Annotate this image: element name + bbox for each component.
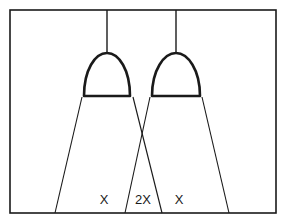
intensity-label-left: X <box>100 193 109 206</box>
lamp-diagram <box>0 0 285 221</box>
lamp-left <box>84 10 130 96</box>
lamp-right <box>152 10 200 96</box>
lamp-shade-right-icon <box>152 53 200 96</box>
intensity-label-overlap: 2X <box>135 193 151 206</box>
room-frame <box>10 10 276 213</box>
lamp-shade-left-icon <box>84 53 130 96</box>
intensity-label-right: X <box>175 193 184 206</box>
